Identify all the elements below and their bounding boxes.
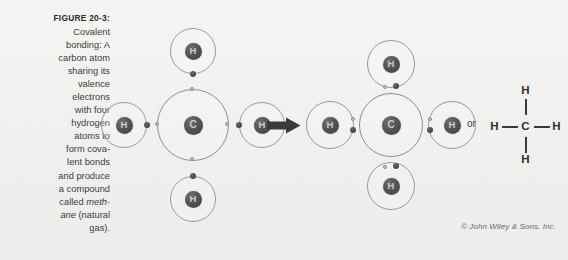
- shared-electron-pair-left-dark: [350, 127, 356, 133]
- formula-bond-bottom: [525, 137, 527, 153]
- shared-electron-pair-top-dark: [393, 83, 399, 89]
- caption-line: electrons: [6, 91, 110, 104]
- caption-line: atoms to: [6, 130, 110, 143]
- caption-line: gas).: [6, 222, 110, 235]
- methane-hydrogen-nucleus-left: H: [322, 117, 339, 134]
- caption-line: a compound: [6, 183, 110, 196]
- hydrogen-electron-right: [236, 122, 242, 128]
- caption-text: called: [59, 197, 86, 207]
- hydrogen-electron-top: [190, 71, 196, 77]
- or-label: or: [467, 118, 476, 129]
- caption-line: sharing its: [6, 65, 110, 78]
- caption-line: bonding: A: [6, 39, 110, 52]
- caption-line: with four: [6, 104, 110, 117]
- carbon-valence-electron-right: [225, 122, 229, 126]
- caption-line-methane-a: called meth-: [6, 196, 110, 209]
- hydrogen-nucleus-top: H: [185, 43, 202, 60]
- hydrogen-nucleus-bottom: H: [185, 191, 202, 208]
- shared-electron-pair-right-dark: [427, 127, 433, 133]
- figure-number-label: FIGURE 20-3:: [6, 12, 110, 25]
- formula-hydrogen-bottom: H: [519, 153, 532, 166]
- formula-hydrogen-left: H: [488, 120, 501, 133]
- shared-electron-pair-bottom-light: [383, 165, 387, 169]
- carbon-nucleus: C: [184, 116, 203, 135]
- methane-hydrogen-nucleus-bottom: H: [383, 178, 400, 195]
- shared-electron-pair-bottom-dark: [393, 163, 399, 169]
- hydrogen-electron-bottom: [190, 173, 196, 179]
- copyright-credit: © John Wiley & Sons, Inc.: [461, 222, 556, 231]
- hydrogen-nucleus-left: H: [116, 117, 133, 134]
- formula-carbon-center: C: [519, 120, 532, 133]
- caption-line-methane-b: ane (natural: [6, 209, 110, 222]
- caption-line: hydrogen: [6, 117, 110, 130]
- formula-bond-top: [525, 99, 527, 115]
- hydrogen-electron-left: [144, 122, 150, 128]
- methane-hydrogen-nucleus-top: H: [383, 56, 400, 73]
- formula-hydrogen-right: H: [550, 120, 563, 133]
- caption-line: valence: [6, 78, 110, 91]
- formula-bond-left: [502, 126, 518, 128]
- right-arrow-icon: [267, 117, 301, 134]
- formula-bond-right: [534, 126, 550, 128]
- caption-line: form cova-: [6, 143, 110, 156]
- figure-caption: FIGURE 20-3: Covalent bonding: A carbon …: [6, 12, 110, 235]
- structural-formula: H H C H H: [488, 84, 564, 170]
- shared-electron-pair-top-light: [383, 85, 387, 89]
- caption-line: lent bonds: [6, 156, 110, 169]
- methane-carbon-nucleus: C: [382, 116, 401, 135]
- formula-hydrogen-top: H: [519, 84, 532, 97]
- shared-electron-pair-right-light: [428, 117, 432, 121]
- methane-molecule-diagram: C H H H H: [315, 0, 465, 260]
- methane-hydrogen-nucleus-right: H: [444, 117, 461, 134]
- carbon-valence-electron-top: [190, 87, 194, 91]
- caption-line: carbon atom: [6, 52, 110, 65]
- caption-text: (natural: [76, 210, 110, 220]
- diagram-stage: C H H H H: [110, 0, 568, 260]
- shared-electron-pair-left-light: [351, 117, 355, 121]
- carbon-valence-electron-bottom: [190, 157, 194, 161]
- caption-line: Covalent: [6, 26, 110, 39]
- carbon-valence-electron-left: [155, 122, 159, 126]
- caption-italic-text: meth-: [86, 197, 110, 207]
- figure-container: FIGURE 20-3: Covalent bonding: A carbon …: [0, 0, 568, 260]
- caption-italic-text: ane: [60, 210, 76, 220]
- caption-line: and produce: [6, 170, 110, 183]
- separate-atoms-diagram: C H H H H: [110, 0, 270, 260]
